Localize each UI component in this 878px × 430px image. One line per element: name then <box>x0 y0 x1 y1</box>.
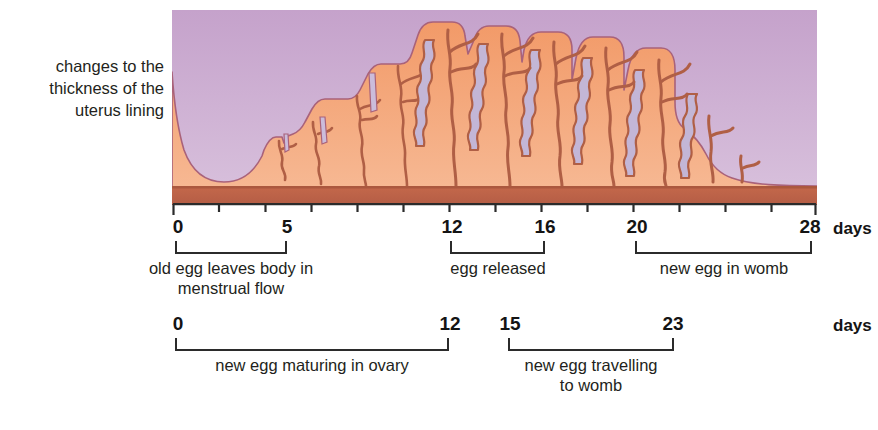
tick-label-t1-0: 0 <box>173 216 184 238</box>
timeline-2-unit-label: days <box>833 316 872 336</box>
timeline-1-axis <box>172 203 817 217</box>
caption-t2-span-0-line-1: new egg maturing in ovary <box>215 355 409 375</box>
tick-label-t1-16: 16 <box>534 216 555 238</box>
caption-t1-span-0-line-1: old egg leaves body in <box>149 258 313 278</box>
caption-t2-span-1: new egg travelling to womb <box>525 355 658 395</box>
tick-label-t1-12: 12 <box>441 216 462 238</box>
caption-t1-span-1-line-1: egg released <box>450 258 545 278</box>
timeline-uterus-cycle: 0 5 12 16 20 28 days old egg leaves body… <box>0 203 878 303</box>
bracket-t1-span-0 <box>175 241 287 254</box>
caption-t1-span-1: egg released <box>450 258 545 278</box>
chart-side-label: changes to the thickness of the uterus l… <box>12 55 164 121</box>
side-label-line-1: changes to the <box>12 55 164 77</box>
tick-label-t2-12: 12 <box>439 313 460 335</box>
uterus-lining-illustration <box>172 10 817 205</box>
caption-t2-span-1-line-2: to womb <box>525 375 658 395</box>
caption-t1-span-0: old egg leaves body in menstrual flow <box>149 258 313 298</box>
bracket-t2-span-0 <box>175 338 449 351</box>
bracket-t2-span-1 <box>508 338 674 351</box>
timeline-ovary-cycle: 0 12 15 23 days new egg maturing in ovar… <box>0 313 878 418</box>
tick-label-t1-20: 20 <box>626 216 647 238</box>
bracket-t1-span-2 <box>635 241 812 254</box>
tick-label-t2-0: 0 <box>173 313 184 335</box>
side-label-line-3: uterus lining <box>12 99 164 121</box>
tick-label-t2-23: 23 <box>662 313 683 335</box>
tick-label-t1-28: 28 <box>799 216 820 238</box>
caption-t2-span-0: new egg maturing in ovary <box>215 355 409 375</box>
tick-label-t2-15: 15 <box>499 313 520 335</box>
caption-t1-span-2-line-1: new egg in womb <box>660 258 788 278</box>
timeline-1-unit-label: days <box>833 219 872 239</box>
tick-label-t1-5: 5 <box>282 216 293 238</box>
side-label-line-2: thickness of the <box>12 77 164 99</box>
caption-t1-span-2: new egg in womb <box>660 258 788 278</box>
bracket-t1-span-1 <box>450 241 545 254</box>
caption-t2-span-1-line-1: new egg travelling <box>525 355 658 375</box>
caption-t1-span-0-line-2: menstrual flow <box>149 278 313 298</box>
